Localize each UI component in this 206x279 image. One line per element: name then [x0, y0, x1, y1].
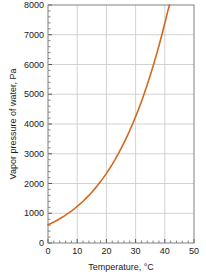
y-tick-label: 0	[39, 238, 44, 248]
x-tick-label: 0	[45, 246, 50, 256]
chart-figure: 01020304050 0100020003000400050006000700…	[0, 0, 206, 279]
y-tick-label: 5000	[24, 89, 44, 99]
x-tick-label: 20	[101, 246, 111, 256]
x-tick-label: 40	[160, 246, 170, 256]
y-axis-title: Vapor pressure of water, Pa	[8, 69, 18, 180]
y-tick-label: 4000	[24, 119, 44, 129]
x-tick-label: 50	[189, 246, 199, 256]
y-tick-label: 2000	[24, 179, 44, 189]
y-tick-label: 1000	[24, 208, 44, 218]
y-tick-label: 3000	[24, 149, 44, 159]
x-tick-label: 10	[72, 246, 82, 256]
vapor-pressure-chart: 01020304050 0100020003000400050006000700…	[0, 0, 206, 279]
y-tick-label: 6000	[24, 60, 44, 70]
chart-background	[0, 0, 206, 279]
y-tick-label: 8000	[24, 0, 44, 10]
x-axis-title: Temperature, °C	[88, 262, 154, 272]
x-tick-label: 30	[131, 246, 141, 256]
y-axis-tick-labels: 010002000300040005000600070008000	[24, 0, 44, 248]
y-tick-label: 7000	[24, 30, 44, 40]
